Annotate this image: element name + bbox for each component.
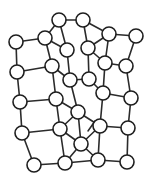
graph-node[interactable] [120, 155, 134, 169]
graph-node[interactable] [124, 91, 138, 105]
graph-node[interactable] [38, 31, 52, 45]
graph-node[interactable] [53, 122, 67, 136]
graph-node[interactable] [119, 59, 133, 73]
graph-node[interactable] [82, 72, 96, 86]
graph-node[interactable] [76, 13, 90, 27]
graph-node[interactable] [63, 73, 77, 87]
graph-node[interactable] [10, 65, 24, 79]
network-graph-canvas [0, 0, 152, 183]
graph-node[interactable] [81, 41, 95, 55]
graph-node[interactable] [60, 43, 74, 57]
graph-node[interactable] [45, 59, 59, 73]
graph-node[interactable] [98, 56, 112, 70]
graph-node[interactable] [71, 105, 85, 119]
graph-node[interactable] [96, 86, 110, 100]
graph-node[interactable] [121, 121, 135, 135]
graph-node[interactable] [15, 126, 29, 140]
graph-node[interactable] [9, 35, 23, 49]
graph-node[interactable] [27, 158, 41, 172]
graph-node[interactable] [58, 156, 72, 170]
graph-node[interactable] [129, 29, 143, 43]
graph-node[interactable] [93, 119, 107, 133]
graph-node[interactable] [102, 27, 116, 41]
network-graph-figure [0, 0, 152, 183]
graph-node[interactable] [49, 92, 63, 106]
graph-node[interactable] [52, 13, 66, 27]
graph-node[interactable] [91, 153, 105, 167]
graph-node[interactable] [13, 95, 27, 109]
graph-node[interactable] [74, 137, 88, 151]
node-layer [9, 13, 143, 172]
